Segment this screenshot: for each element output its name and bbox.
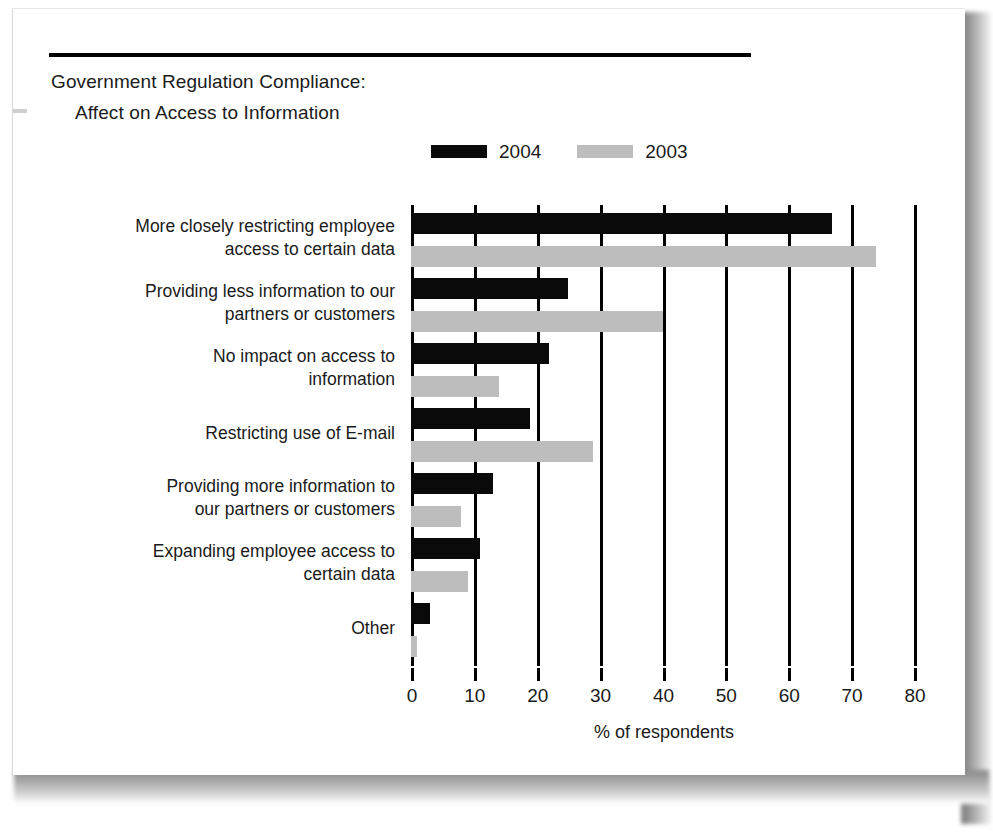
scanned-page: Government Regulation Compliance: Affect…	[0, 0, 993, 837]
bar-2004-cat-3	[411, 408, 530, 429]
category-label-2-line-1: information	[65, 368, 395, 391]
gridline-70	[851, 205, 854, 666]
gridline-20	[537, 205, 540, 666]
gridline-40	[663, 205, 666, 666]
x-tick-mark-40	[663, 668, 666, 681]
bar-2004-cat-0	[411, 213, 832, 234]
category-label-1-line-1: partners or customers	[65, 303, 395, 326]
legend-label-2004: 2004	[499, 142, 541, 161]
category-label-0-line-0: More closely restricting employee	[65, 215, 395, 238]
category-label-1: Providing less information to ourpartner…	[65, 280, 395, 326]
category-label-3-line-0: Restricting use of E-mail	[65, 422, 395, 445]
x-tick-mark-0	[411, 668, 414, 681]
bar-2003-cat-1	[411, 311, 663, 332]
category-label-2: No impact on access toinformation	[65, 345, 395, 391]
legend-swatch-2003-icon	[577, 145, 633, 158]
legend-item-2003: 2003	[577, 142, 687, 161]
x-tick-label-30: 30	[581, 685, 621, 707]
bar-2004-cat-1	[411, 278, 568, 299]
category-label-1-line-0: Providing less information to our	[65, 280, 395, 303]
x-tick-mark-10	[474, 668, 477, 681]
x-tick-label-0: 0	[392, 685, 432, 707]
x-axis-title: % of respondents	[411, 722, 917, 743]
chart-title-line-1: Government Regulation Compliance:	[51, 71, 366, 93]
category-label-4-line-1: our partners or customers	[65, 498, 395, 521]
x-tick-mark-50	[725, 668, 728, 681]
category-label-2-line-0: No impact on access to	[65, 345, 395, 368]
title-divider-rule	[49, 53, 751, 57]
bar-2003-cat-0	[411, 246, 876, 267]
x-tick-label-40: 40	[644, 685, 684, 707]
x-tick-mark-20	[537, 668, 540, 681]
category-label-0-line-1: access to certain data	[65, 238, 395, 261]
category-label-4: Providing more information toour partner…	[65, 475, 395, 521]
x-tick-mark-30	[600, 668, 603, 681]
x-tick-label-70: 70	[832, 685, 872, 707]
chart-legend: 2004 2003	[431, 142, 688, 161]
gridline-10	[474, 205, 477, 666]
gridline-60	[788, 205, 791, 666]
x-tick-label-60: 60	[769, 685, 809, 707]
x-tick-mark-70	[851, 668, 854, 681]
x-tick-mark-80	[914, 668, 917, 681]
page-shadow-bottom	[14, 770, 989, 804]
bar-2003-cat-3	[411, 441, 593, 462]
legend-label-2003: 2003	[645, 142, 687, 161]
category-label-5-line-1: certain data	[65, 563, 395, 586]
gridline-0	[411, 205, 414, 666]
bar-2003-cat-2	[411, 376, 499, 397]
category-label-5-line-0: Expanding employee access to	[65, 540, 395, 563]
bar-2004-cat-2	[411, 343, 549, 364]
legend-item-2004: 2004	[431, 142, 541, 161]
chart-paper: Government Regulation Compliance: Affect…	[12, 8, 965, 775]
page-shadow-right	[961, 12, 993, 824]
x-tick-label-10: 10	[455, 685, 495, 707]
gridline-80	[914, 205, 917, 666]
bar-2004-cat-4	[411, 473, 493, 494]
bar-2004-cat-6	[411, 603, 430, 624]
x-tick-label-20: 20	[518, 685, 558, 707]
gridline-30	[600, 205, 603, 666]
x-tick-label-80: 80	[895, 685, 935, 707]
category-label-6-line-0: Other	[65, 617, 395, 640]
x-tick-mark-60	[788, 668, 791, 681]
category-label-6: Other	[65, 617, 395, 640]
chart-title-line-2: Affect on Access to Information	[75, 102, 340, 124]
bar-2004-cat-5	[411, 538, 480, 559]
page-edge-mark	[13, 109, 27, 113]
legend-swatch-2004-icon	[431, 145, 487, 158]
chart-plot-area	[411, 205, 914, 666]
category-label-4-line-0: Providing more information to	[65, 475, 395, 498]
gridline-50	[725, 205, 728, 666]
category-label-5: Expanding employee access tocertain data	[65, 540, 395, 586]
bar-2003-cat-5	[411, 571, 468, 592]
bar-2003-cat-4	[411, 506, 461, 527]
category-label-0: More closely restricting employeeaccess …	[65, 215, 395, 261]
category-label-3: Restricting use of E-mail	[65, 422, 395, 445]
bar-2003-cat-6	[411, 636, 417, 657]
x-tick-label-50: 50	[706, 685, 746, 707]
